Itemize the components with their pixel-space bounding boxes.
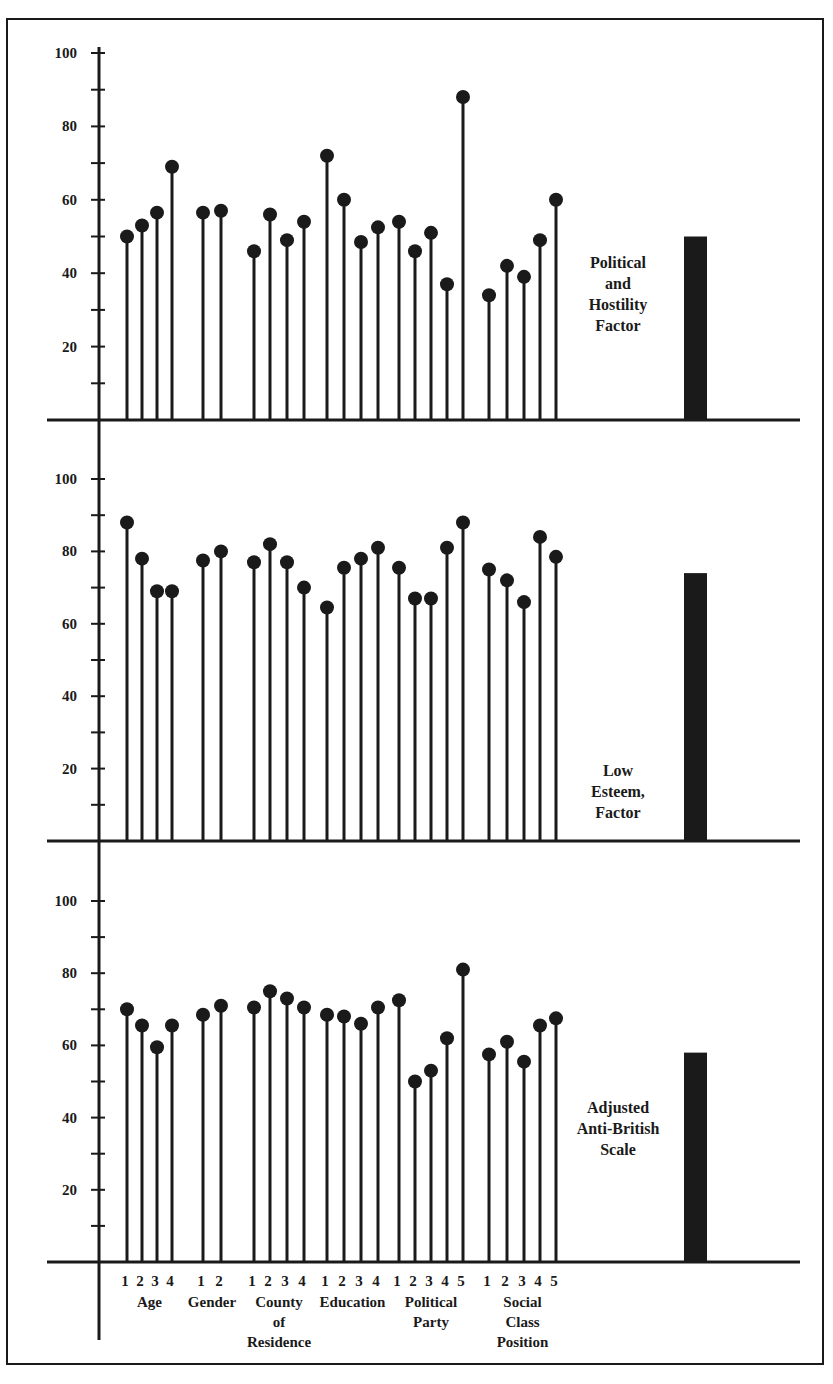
stem-dot bbox=[482, 1047, 496, 1061]
stem-dot bbox=[263, 207, 277, 221]
group-label: of bbox=[273, 1314, 287, 1330]
stem-dot bbox=[392, 215, 406, 229]
stem-dot bbox=[549, 1011, 563, 1025]
stem-dot bbox=[482, 288, 496, 302]
stem-dot bbox=[320, 149, 334, 163]
stem-dot bbox=[263, 537, 277, 551]
stem-dot bbox=[337, 193, 351, 207]
group-label: Position bbox=[497, 1334, 549, 1350]
panel-1: 20406080100PoliticalandHostilityFactor bbox=[47, 45, 800, 420]
category-tick-label: 3 bbox=[425, 1273, 433, 1289]
stem-dot bbox=[337, 1010, 351, 1024]
stem-dot bbox=[165, 160, 179, 174]
category-tick-label: 3 bbox=[355, 1273, 363, 1289]
panel-label: Esteem, bbox=[591, 783, 645, 800]
stem-dot bbox=[297, 1000, 311, 1014]
stem-dot bbox=[247, 555, 261, 569]
stem-dot bbox=[320, 1008, 334, 1022]
stem-dot bbox=[371, 541, 385, 555]
overall-bar bbox=[684, 237, 707, 421]
stem-dot bbox=[440, 1031, 454, 1045]
y-tick-label: 40 bbox=[62, 265, 77, 281]
y-tick-label: 40 bbox=[62, 688, 77, 704]
group-label: Class bbox=[505, 1314, 539, 1330]
category-tick-label: 1 bbox=[121, 1273, 129, 1289]
stem-dot bbox=[120, 230, 134, 244]
group-label: Party bbox=[413, 1314, 449, 1330]
stem-dot bbox=[354, 235, 368, 249]
panel-label: Political bbox=[590, 254, 647, 271]
stem-dot bbox=[120, 515, 134, 529]
category-tick-label: 2 bbox=[264, 1273, 272, 1289]
stem-dot bbox=[408, 244, 422, 258]
category-tick-label: 1 bbox=[248, 1273, 256, 1289]
panel-2: 20406080100LowEsteem,Factor bbox=[47, 471, 800, 841]
panel-label: Anti-British bbox=[577, 1120, 660, 1137]
stem-dot bbox=[196, 1008, 210, 1022]
group-label: Political bbox=[405, 1294, 458, 1310]
stem-dot bbox=[533, 530, 547, 544]
stem-dot bbox=[247, 244, 261, 258]
group-label: Social bbox=[503, 1294, 541, 1310]
stem-dot bbox=[533, 1019, 547, 1033]
stem-dot bbox=[500, 259, 514, 273]
stem-dot bbox=[280, 555, 294, 569]
stem-dot bbox=[517, 270, 531, 284]
stem-dot bbox=[482, 563, 496, 577]
stem-dot bbox=[263, 984, 277, 998]
category-tick-label: 2 bbox=[338, 1273, 346, 1289]
stem-dot bbox=[549, 193, 563, 207]
stem-dot bbox=[440, 277, 454, 291]
category-tick-label: 5 bbox=[457, 1273, 465, 1289]
stem-dot bbox=[533, 233, 547, 247]
x-axis-labels: 1234Age12Gender1234CountyofResidence1234… bbox=[121, 1273, 558, 1350]
panel-label: and bbox=[605, 275, 631, 292]
y-tick-label: 60 bbox=[62, 616, 77, 632]
y-tick-label: 20 bbox=[62, 339, 77, 355]
stem-dot bbox=[150, 206, 164, 220]
group-label: County bbox=[255, 1294, 303, 1310]
category-tick-label: 3 bbox=[151, 1273, 159, 1289]
stem-dot bbox=[150, 584, 164, 598]
stem-dot bbox=[214, 999, 228, 1013]
stem-dot bbox=[456, 515, 470, 529]
y-tick-label: 60 bbox=[62, 1037, 77, 1053]
stem-dot bbox=[408, 591, 422, 605]
category-tick-label: 4 bbox=[441, 1273, 449, 1289]
y-tick-label: 20 bbox=[62, 761, 77, 777]
panel-label: Factor bbox=[595, 804, 640, 821]
panel-3: 20406080100AdjustedAnti-BritishScale bbox=[47, 893, 800, 1262]
stem-chart: 20406080100PoliticalandHostilityFactor20… bbox=[0, 0, 833, 1384]
panel-label: Adjusted bbox=[587, 1099, 649, 1117]
stem-dot bbox=[371, 220, 385, 234]
category-tick-label: 3 bbox=[281, 1273, 289, 1289]
stem-dot bbox=[549, 550, 563, 564]
stem-dot bbox=[392, 561, 406, 575]
category-tick-label: 4 bbox=[534, 1273, 542, 1289]
stem-dot bbox=[424, 1064, 438, 1078]
stem-dot bbox=[371, 1000, 385, 1014]
category-tick-label: 4 bbox=[372, 1273, 380, 1289]
category-tick-label: 1 bbox=[321, 1273, 329, 1289]
stem-dot bbox=[196, 553, 210, 567]
stem-dot bbox=[320, 601, 334, 615]
y-tick-label: 80 bbox=[62, 118, 77, 134]
stem-dot bbox=[424, 226, 438, 240]
panel-label: Factor bbox=[595, 317, 640, 334]
stem-dot bbox=[337, 561, 351, 575]
stem-dot bbox=[214, 544, 228, 558]
stem-dot bbox=[280, 233, 294, 247]
stem-dot bbox=[297, 215, 311, 229]
panels: 20406080100PoliticalandHostilityFactor20… bbox=[47, 45, 800, 1262]
stem-dot bbox=[135, 552, 149, 566]
stem-dot bbox=[354, 552, 368, 566]
stem-dot bbox=[354, 1017, 368, 1031]
category-tick-label: 1 bbox=[393, 1273, 401, 1289]
stem-dot bbox=[408, 1075, 422, 1089]
stem-dot bbox=[392, 993, 406, 1007]
category-tick-label: 1 bbox=[483, 1273, 491, 1289]
stem-dot bbox=[500, 1035, 514, 1049]
panel-label: Scale bbox=[600, 1141, 636, 1158]
y-tick-label: 20 bbox=[62, 1182, 77, 1198]
stem-dot bbox=[500, 573, 514, 587]
